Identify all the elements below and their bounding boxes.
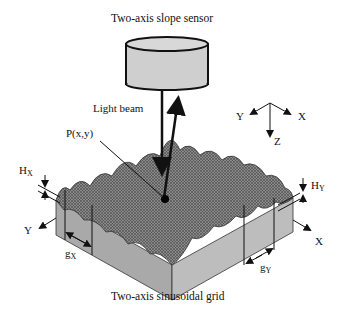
pitch-y-label: gY [260,262,271,275]
block-y-label: Y [24,225,32,236]
block-x-axis [293,220,310,230]
light-beam-label: Light beam [93,103,143,114]
block-x-label: X [315,236,323,247]
diagram-drawing [0,0,347,310]
triad-y-label: Y [236,111,244,122]
sensor-label: Two-axis slope sensor [111,13,213,25]
triad-z-label: Z [274,136,281,147]
block-y-axis [40,218,56,228]
point-p-label: P(x,y) [66,128,93,139]
axis-triad [251,103,290,136]
triad-x-label: X [298,111,306,122]
grid-label: Two-axis sinusoidal grid [111,291,225,303]
pitch-x-label: gX [65,248,76,261]
slope-sensor [126,37,208,90]
height-x-label: HX [19,165,33,178]
height-y-label: HY [311,180,325,193]
